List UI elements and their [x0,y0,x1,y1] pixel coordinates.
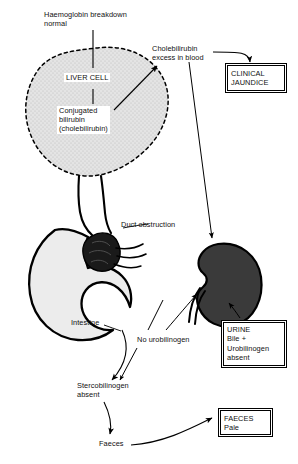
arrow-blood-to-jaundice [213,52,250,62]
bile-duct-right [101,176,111,233]
arrow-to-kidney-hilum [166,294,197,330]
duct-obstruction-mass [83,233,120,271]
box-faeces-pale: FAECES Pale [218,408,273,437]
jaundice-diagram: Haemoglobin breakdown normal LIVER CELL … [0,0,298,464]
arrow-nourobilinogen-up [148,300,163,330]
duct-branch-2 [117,254,146,258]
box-faeces-pale-label: FAECES Pale [224,414,253,433]
arrow-stercobilinogen-to-faeces [104,402,111,434]
label-duct-obstruction: Duct obstruction [121,220,175,229]
label-liver-cell: LIVER CELL [64,73,110,82]
arrow-blood-to-kidney [189,62,212,238]
box-urine: URINE Bile + Urobilinogen absent [221,320,287,368]
box-clinical-jaundice: CLINICAL JAUNDICE [225,63,287,93]
label-conjugated-bilirubin: Conjugated bilirubin (cholebilirubin) [57,106,110,134]
box-urine-label: URINE Bile + Urobilinogen absent [227,325,269,363]
duct-branch-3 [114,264,141,268]
label-cholebilirubin-excess: Cholebilirubin excess in blood [152,44,204,62]
label-stercobilinogen-absent: Stercobilinogen absent [77,381,129,399]
arrow-faeces-to-box [131,418,212,445]
label-haemoglobin-breakdown: Haemoglobin breakdown normal [44,10,127,28]
kidney [197,244,262,327]
label-no-urobilinogen: No urobilinogen [137,335,190,344]
duct-branch-1 [116,244,143,249]
label-intestine: Intestine [71,318,99,327]
bile-duct-left [78,176,93,236]
label-faeces: Faeces [99,439,124,448]
box-clinical-jaundice-label: CLINICAL JAUNDICE [231,69,268,88]
